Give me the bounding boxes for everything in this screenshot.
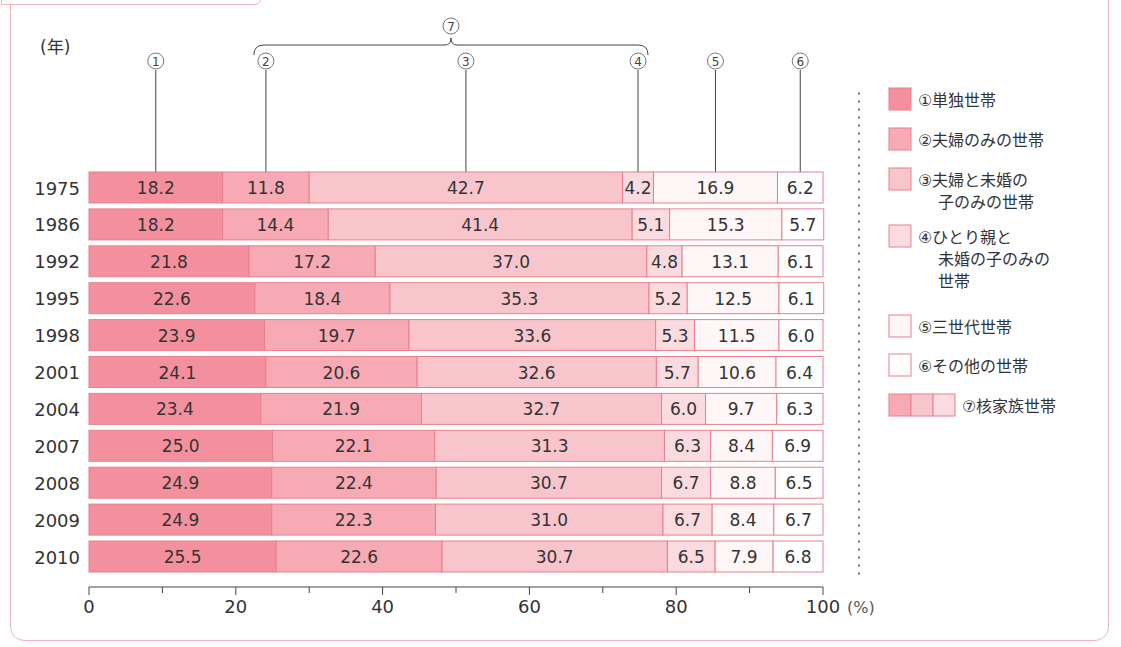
category-label: 1975	[34, 178, 80, 199]
data-label: 19.7	[318, 326, 356, 346]
data-label: 21.9	[322, 399, 360, 419]
bar-row-2010: 201025.522.630.76.57.96.8	[34, 541, 823, 572]
data-label: 13.1	[711, 252, 749, 272]
category-label: 2010	[34, 547, 80, 568]
data-label: 6.7	[785, 510, 812, 530]
data-label: 6.9	[784, 436, 811, 456]
data-label: 21.8	[150, 252, 188, 272]
data-label: 22.4	[335, 473, 373, 493]
bar-row-1992: 199221.817.237.04.813.16.1	[34, 246, 823, 277]
data-label: 31.0	[530, 510, 568, 530]
bar-row-2001: 200124.120.632.65.710.66.4	[34, 357, 823, 388]
legend-item-5: ⑤三世代世帯	[889, 315, 1012, 337]
category-label: 1995	[34, 288, 80, 309]
legend-item-2: ②夫婦のみの世帯	[889, 128, 1044, 150]
legend-swatch	[889, 88, 911, 110]
data-label: 32.7	[523, 399, 561, 419]
data-label: 6.5	[678, 547, 705, 567]
legend-label: ②夫婦のみの世帯	[918, 131, 1044, 150]
data-label: 23.9	[158, 326, 196, 346]
bar-row-1995: 199522.618.435.35.212.56.1	[34, 283, 824, 314]
x-tick-label: 20	[224, 596, 247, 617]
category-label: 1986	[34, 214, 80, 235]
group-marker-label: 7	[447, 20, 455, 34]
legend-swatch	[911, 394, 933, 416]
data-label: 6.7	[674, 510, 701, 530]
legend-label: ⑦核家族世帯	[962, 397, 1056, 416]
data-label: 17.2	[293, 252, 331, 272]
data-label: 20.6	[323, 363, 361, 383]
bar-row-2007: 200725.022.131.36.38.46.9	[34, 430, 823, 461]
data-label: 18.4	[303, 289, 341, 309]
legend-label: ①単独世帯	[918, 91, 996, 110]
series-marker-label: 2	[262, 55, 270, 69]
bar-row-1998: 199823.919.733.65.311.56.0	[34, 320, 823, 351]
x-tick-label: 100	[806, 596, 840, 617]
bar-row-1975: 197518.211.842.74.216.96.2	[34, 172, 823, 203]
data-label: 16.9	[697, 178, 735, 198]
data-label: 6.3	[786, 399, 813, 419]
data-label: 24.9	[161, 510, 199, 530]
legend-item-3: ③夫婦と未婚の子のみの世帯	[889, 168, 1034, 212]
x-tick-label: 40	[371, 596, 394, 617]
data-label: 24.9	[161, 473, 199, 493]
x-tick-label: 80	[665, 596, 688, 617]
data-label: 22.1	[335, 436, 373, 456]
legend-swatch	[889, 394, 911, 416]
data-label: 6.3	[674, 436, 701, 456]
bar-row-2004: 200423.421.932.76.09.76.3	[34, 393, 823, 424]
category-label: 2001	[34, 362, 80, 383]
x-tick-label: 0	[83, 596, 94, 617]
series-marker-label: 1	[152, 55, 160, 69]
data-label: 30.7	[536, 547, 574, 567]
data-label: 22.6	[153, 289, 191, 309]
legend-swatch	[889, 354, 911, 376]
data-label: 6.2	[787, 178, 814, 198]
data-label: 4.8	[651, 252, 678, 272]
data-label: 7.9	[731, 547, 758, 567]
legend-label: ⑥その他の世帯	[918, 357, 1028, 376]
legend-item-4: ④ひとり親と未婚の子のみの世帯	[889, 225, 1050, 291]
legend-label: ⑤三世代世帯	[918, 318, 1012, 337]
series-marker-label: 6	[796, 55, 804, 69]
series-marker-label: 3	[462, 55, 470, 69]
legend-item-1: ①単独世帯	[889, 88, 996, 110]
data-label: 6.4	[786, 363, 813, 383]
data-label: 6.0	[670, 399, 697, 419]
data-label: 14.4	[257, 215, 295, 235]
bar-row-2008: 200824.922.430.76.78.86.5	[34, 467, 823, 498]
data-label: 12.5	[714, 289, 752, 309]
data-label: 10.6	[718, 363, 756, 383]
legend-label: 未婚の子のみの	[938, 250, 1050, 269]
legend-swatch	[889, 315, 911, 337]
series-marker-label: 4	[634, 55, 642, 69]
data-label: 5.1	[637, 215, 664, 235]
data-label: 22.6	[340, 547, 378, 567]
data-label: 6.5	[786, 473, 813, 493]
data-label: 33.6	[513, 326, 551, 346]
data-label: 32.6	[518, 363, 556, 383]
legend-label: ④ひとり親と	[918, 228, 1012, 247]
data-label: 11.5	[718, 326, 756, 346]
category-label: 1998	[34, 325, 80, 346]
stacked-bar-chart: 1234567 197518.211.842.74.216.96.2198618…	[0, 0, 1121, 647]
data-label: 9.7	[728, 399, 755, 419]
data-label: 30.7	[530, 473, 568, 493]
data-label: 6.1	[787, 252, 814, 272]
data-label: 37.0	[492, 252, 530, 272]
data-label: 35.3	[501, 289, 539, 309]
legend-swatch	[889, 225, 911, 247]
data-label: 5.3	[662, 326, 689, 346]
legend-swatch	[889, 168, 911, 190]
data-label: 25.5	[164, 547, 202, 567]
data-label: 6.8	[785, 547, 812, 567]
y-axis-label: (年)	[40, 37, 70, 57]
legend-label: 子のみの世帯	[938, 193, 1034, 212]
data-label: 6.0	[787, 326, 814, 346]
data-label: 25.0	[162, 436, 200, 456]
legend-label: 世帯	[938, 272, 970, 291]
bar-row-1986: 198618.214.441.45.115.35.7	[34, 209, 824, 240]
legend-label: ③夫婦と未婚の	[918, 171, 1028, 190]
data-label: 18.2	[137, 215, 175, 235]
data-label: 5.7	[664, 363, 691, 383]
